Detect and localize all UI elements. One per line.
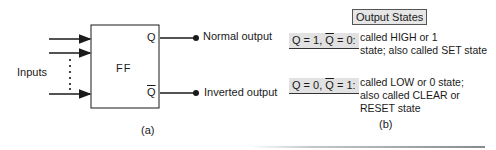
description-line: called LOW or 0 state; — [360, 76, 464, 89]
state-key-rest: = 1: — [334, 79, 356, 91]
state-key-q: Q = 1, — [292, 34, 325, 46]
state-key-qbar: Q — [325, 34, 334, 46]
description-line: called HIGH or 1 — [360, 31, 487, 44]
description-line: also called CLEAR or — [360, 89, 464, 102]
normal-output-terminal — [193, 35, 199, 41]
inverted-output-label: Inverted output — [204, 86, 277, 98]
inverted-output-terminal — [193, 90, 199, 96]
q-pin-label: Q — [147, 31, 156, 43]
caption-b: (b) — [379, 118, 392, 130]
state-key-qbar: Q — [325, 79, 334, 91]
description-line: RESET state — [360, 102, 464, 115]
state-description-reset: called LOW or 0 state; also called CLEAR… — [360, 76, 464, 115]
normal-output-label: Normal output — [203, 30, 272, 42]
output-states-title: Output States — [352, 9, 427, 25]
ff-block-label: FF — [116, 62, 131, 74]
state-description-set: called HIGH or 1 state; also called SET … — [360, 31, 487, 57]
state-key-q: Q = 0, — [292, 79, 325, 91]
state-key-rest: = 0: — [334, 34, 356, 46]
state-key-reset: Q = 0, Q = 1: — [289, 78, 359, 94]
bottom-rule — [250, 146, 485, 148]
inputs-label: Inputs — [17, 66, 47, 78]
ellipsis-dots — [69, 59, 71, 90]
qbar-pin-label: Q — [147, 86, 156, 98]
state-key-set: Q = 1, Q = 0: — [289, 33, 359, 49]
caption-a: (a) — [141, 124, 154, 136]
description-line: state; also called SET state — [360, 44, 487, 57]
